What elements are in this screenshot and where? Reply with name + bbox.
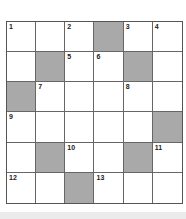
black-square — [124, 52, 153, 82]
clue-number: 12 — [9, 174, 17, 181]
clue-number: 9 — [9, 113, 13, 120]
crossword-cell[interactable]: 12 — [7, 173, 36, 203]
crossword-cell[interactable]: 7 — [36, 82, 65, 112]
crossword-cell[interactable] — [36, 173, 65, 203]
crossword-cell[interactable]: 2 — [65, 22, 94, 52]
crossword-cell[interactable]: 10 — [65, 143, 94, 173]
crossword-cell[interactable]: 1 — [7, 22, 36, 52]
crossword-cell[interactable] — [7, 143, 36, 173]
crossword-cell[interactable] — [36, 112, 65, 142]
bottom-bar — [0, 212, 186, 219]
crossword-cell[interactable] — [94, 112, 123, 142]
clue-number: 11 — [155, 144, 162, 151]
clue-number: 8 — [126, 83, 130, 90]
crossword-cell[interactable] — [124, 173, 153, 203]
clue-number: 7 — [38, 83, 42, 90]
black-square — [94, 22, 123, 52]
clue-number: 10 — [67, 144, 75, 151]
black-square — [124, 143, 153, 173]
crossword-cell[interactable] — [36, 22, 65, 52]
clue-number: 2 — [67, 23, 71, 30]
crossword-cell[interactable]: 5 — [65, 52, 94, 82]
clue-number: 3 — [126, 23, 130, 30]
crossword-cell[interactable] — [65, 112, 94, 142]
black-square — [7, 82, 36, 112]
top-edge — [0, 0, 186, 4]
crossword-cell[interactable]: 9 — [7, 112, 36, 142]
crossword-cell[interactable] — [94, 82, 123, 112]
black-square — [36, 143, 65, 173]
clue-number: 5 — [67, 53, 71, 60]
crossword-cell[interactable] — [65, 82, 94, 112]
clue-number: 13 — [96, 174, 104, 181]
crossword-cell[interactable] — [124, 112, 153, 142]
crossword-grid: 12345678910111213 — [6, 21, 183, 204]
crossword-cell[interactable]: 11 — [153, 143, 182, 173]
crossword-cell[interactable] — [153, 173, 182, 203]
crossword-cell[interactable] — [153, 82, 182, 112]
crossword-cell[interactable]: 8 — [124, 82, 153, 112]
clue-number: 6 — [96, 53, 100, 60]
black-square — [153, 112, 182, 142]
crossword-cell[interactable] — [7, 52, 36, 82]
crossword-cell[interactable]: 6 — [94, 52, 123, 82]
crossword-cell[interactable] — [94, 143, 123, 173]
clue-number: 1 — [9, 23, 13, 30]
crossword-cell[interactable]: 4 — [153, 22, 182, 52]
crossword-cell[interactable] — [153, 52, 182, 82]
black-square — [65, 173, 94, 203]
clue-number: 4 — [155, 23, 159, 30]
crossword-cell[interactable]: 3 — [124, 22, 153, 52]
crossword-cell[interactable]: 13 — [94, 173, 123, 203]
black-square — [36, 52, 65, 82]
